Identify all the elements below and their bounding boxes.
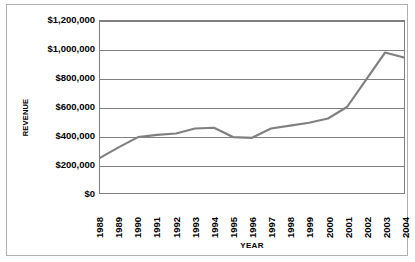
y-axis-tick-label: $200,000 xyxy=(15,160,95,170)
x-axis-tick-label: 2004 xyxy=(400,196,412,238)
x-axis-tick-label: 1988 xyxy=(94,196,106,238)
y-axis-title: REVENUE xyxy=(21,88,30,148)
x-axis-tick-label: 2000 xyxy=(324,196,336,238)
y-axis-tick-label: $1,000,000 xyxy=(15,44,95,54)
x-axis-tick-label: 2003 xyxy=(381,196,393,238)
x-axis-tick-label: 1990 xyxy=(132,196,144,238)
x-axis-tick-label: 1997 xyxy=(266,196,278,238)
y-axis-tick-label: $800,000 xyxy=(15,73,95,83)
x-axis-tick-labels: 1988198919901991199219931994199519961997… xyxy=(99,196,405,240)
y-axis-tick-label: $0 xyxy=(15,189,95,199)
x-axis-tick-label: 1995 xyxy=(228,196,240,238)
x-axis-tick-label: 1998 xyxy=(285,196,297,238)
x-axis-tick-label: 1989 xyxy=(113,196,125,238)
x-axis-tick-label: 2002 xyxy=(362,196,374,238)
x-axis-tick-label: 1991 xyxy=(151,196,163,238)
y-axis-tick-label: $1,200,000 xyxy=(15,15,95,25)
x-axis-tick-label: 1999 xyxy=(304,196,316,238)
x-axis-tick-label: 2001 xyxy=(343,196,355,238)
plot-area xyxy=(99,20,405,194)
x-axis-tick-label: 1996 xyxy=(247,196,259,238)
x-axis-tick-label: 1992 xyxy=(171,196,183,238)
chart-frame: $0$200,000$400,000$600,000$800,000$1,000… xyxy=(6,4,408,256)
revenue-line-path xyxy=(100,53,404,158)
revenue-line-series xyxy=(100,21,404,193)
x-axis-title: YEAR xyxy=(99,241,405,250)
x-axis-tick-label: 1993 xyxy=(190,196,202,238)
x-axis-tick-label: 1994 xyxy=(209,196,221,238)
